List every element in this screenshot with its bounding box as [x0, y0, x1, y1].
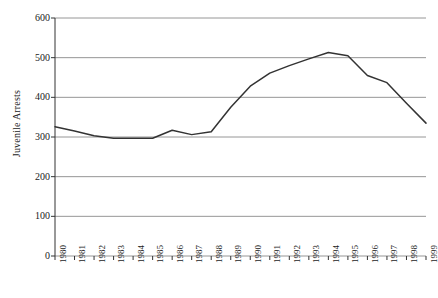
- x-axis-tick-label: 1989: [234, 245, 243, 263]
- x-axis-tick-label: 1999: [430, 245, 438, 263]
- x-axis-tick-label: 1986: [176, 245, 185, 263]
- x-axis-tick-label: 1984: [137, 245, 146, 263]
- x-axis-tick-label: 1983: [117, 245, 126, 263]
- data-series-line: [55, 53, 426, 139]
- x-axis-tick-label: 1981: [78, 245, 87, 263]
- x-axis-tick-label: 1994: [332, 245, 341, 263]
- x-axis-tick-label: 1996: [371, 245, 380, 263]
- x-axis-tick-label: 1985: [156, 245, 165, 263]
- gridlines: [55, 18, 426, 256]
- axis-lines: [51, 18, 55, 256]
- x-axis-tick-label: 1988: [215, 245, 224, 263]
- series-line: [55, 53, 426, 139]
- x-axis-tick-label: 1987: [195, 245, 204, 263]
- x-axis-tick-label: 1998: [410, 245, 419, 263]
- x-axis-tick-label: 1997: [390, 245, 399, 263]
- x-axis-tick-label: 1990: [254, 245, 263, 263]
- x-axis-tick-label: 1995: [351, 245, 360, 263]
- x-axis-tick-label: 1991: [273, 245, 282, 263]
- x-axis-tick-label: 1993: [312, 245, 321, 263]
- x-axis-tick-label: 1982: [98, 245, 107, 263]
- x-axis-tick-label: 1980: [59, 245, 68, 263]
- chart-container: Juvenile Arrests 0100200300400500600 198…: [0, 0, 438, 298]
- x-axis-tick-label: 1992: [293, 245, 302, 263]
